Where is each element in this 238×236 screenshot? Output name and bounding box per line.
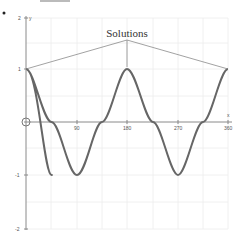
- x-tick-360: 360: [224, 125, 233, 131]
- bullet-marker: [3, 12, 6, 15]
- y-tick-2: 2: [18, 15, 21, 21]
- y-tick-neg1: -1: [15, 172, 20, 178]
- solutions-annotation: Solutions: [106, 27, 148, 39]
- solutions-pointers: [26, 40, 228, 69]
- x-tick-180: 180: [123, 125, 132, 131]
- x-tick-90: 90: [74, 125, 80, 131]
- cosine-graph: y x 2 1 -1 -2 90 180 270 360 Solutions: [0, 0, 238, 236]
- x-axis-label: x: [227, 112, 230, 118]
- y-tick-neg2: -2: [15, 226, 20, 232]
- cropped-text-fragment: [40, 0, 70, 2]
- y-tick-1: 1: [18, 66, 21, 72]
- x-tick-270: 270: [174, 125, 183, 131]
